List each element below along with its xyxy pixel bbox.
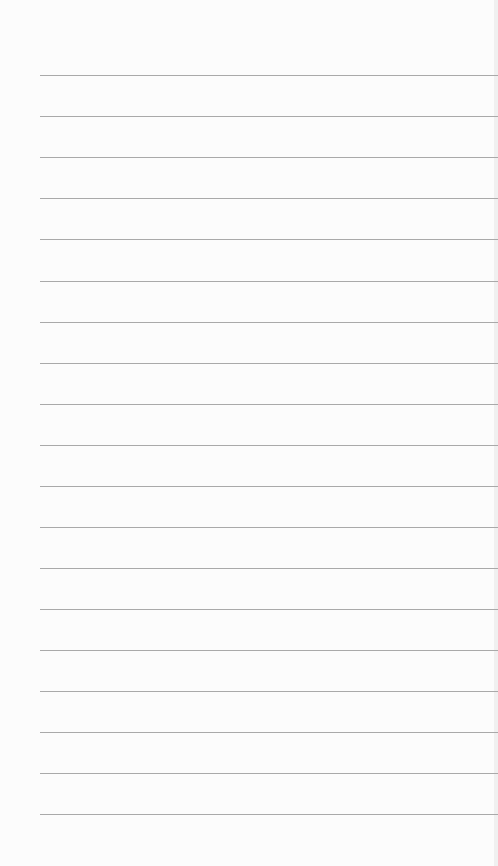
paper-edge [494, 0, 498, 866]
ruled-line [40, 527, 498, 528]
ruled-line [40, 773, 498, 774]
ruled-line [40, 568, 498, 569]
ruled-line [40, 650, 498, 651]
ruled-line [40, 445, 498, 446]
ruled-line [40, 732, 498, 733]
ruled-line [40, 157, 498, 158]
ruled-line [40, 609, 498, 610]
ruled-line [40, 363, 498, 364]
ruled-line [40, 404, 498, 405]
ruled-line [40, 239, 498, 240]
ruled-line [40, 75, 498, 76]
ruled-line [40, 198, 498, 199]
ruled-line [40, 116, 498, 117]
ruled-line [40, 486, 498, 487]
ruled-line [40, 322, 498, 323]
lined-paper [0, 0, 498, 866]
ruled-line [40, 691, 498, 692]
ruled-line [40, 281, 498, 282]
ruled-line [40, 814, 498, 815]
